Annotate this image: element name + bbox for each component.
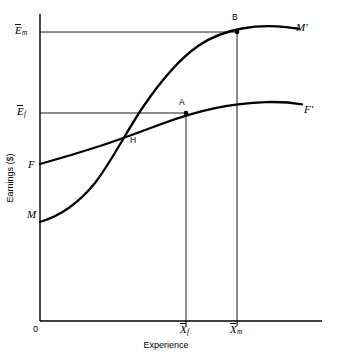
y-tick-label-ef: Ef bbox=[17, 106, 26, 118]
x-tick-xf-base: X bbox=[180, 323, 187, 335]
point-label-b: B bbox=[232, 13, 238, 22]
overbar-em bbox=[15, 24, 21, 25]
point-label-h: H bbox=[130, 136, 136, 145]
overbar-xf bbox=[180, 323, 186, 324]
curve-label-m-start: M bbox=[27, 209, 36, 220]
y-axis-title: Earnings ($) bbox=[6, 153, 15, 202]
curve-label-f-start: F bbox=[28, 159, 35, 170]
point-marker-b bbox=[235, 30, 240, 35]
overbar-xm bbox=[230, 323, 236, 324]
chart-figure: Earnings ($) Experience 0 Em Ef Xf Xm F … bbox=[0, 0, 344, 363]
curve-male-earnings bbox=[40, 26, 299, 222]
overbar-ef bbox=[17, 105, 23, 106]
y-tick-label-em: Em bbox=[15, 25, 27, 37]
point-marker-a bbox=[184, 111, 189, 116]
x-tick-xm-bar-wrap: X bbox=[230, 324, 237, 335]
x-tick-label-xf: Xf bbox=[180, 324, 189, 336]
x-tick-xm-subscript: m bbox=[237, 327, 242, 336]
curve-label-m-end: M' bbox=[296, 22, 308, 33]
y-tick-em-subscript: m bbox=[22, 28, 27, 37]
curve-female-earnings bbox=[40, 102, 302, 164]
x-tick-xf-subscript: f bbox=[187, 327, 189, 336]
x-tick-label-xm: Xm bbox=[230, 324, 242, 336]
y-tick-ef-subscript: f bbox=[24, 109, 26, 118]
x-axis-title: Experience bbox=[143, 341, 188, 350]
x-tick-xm-base: X bbox=[230, 323, 237, 335]
x-tick-xf-bar-wrap: X bbox=[180, 324, 187, 335]
curve-label-f-end: F' bbox=[304, 104, 313, 115]
point-label-a: A bbox=[179, 98, 185, 107]
origin-label: 0 bbox=[33, 325, 38, 334]
y-tick-em-base: E bbox=[15, 24, 22, 36]
y-tick-ef-base: E bbox=[17, 105, 24, 117]
y-tick-ef-bar-wrap: E bbox=[17, 106, 24, 117]
y-tick-em-bar-wrap: E bbox=[15, 25, 22, 36]
chart-plot-area bbox=[0, 0, 344, 363]
